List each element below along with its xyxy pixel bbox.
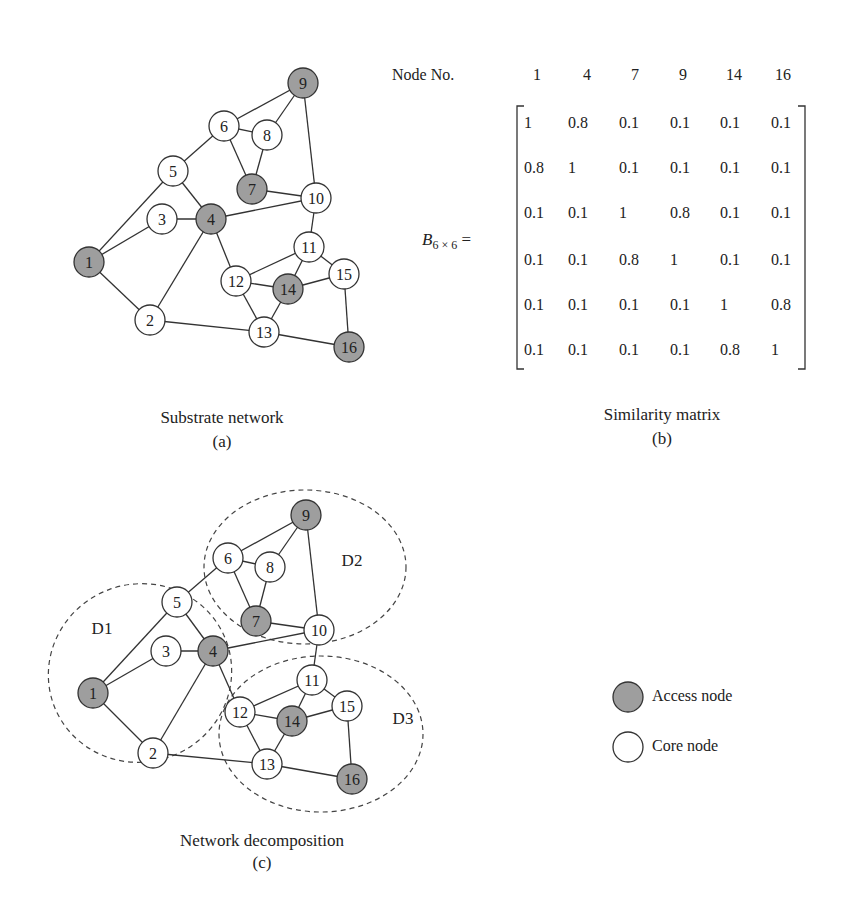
- node-label: 7: [248, 181, 256, 198]
- equals-sign: =: [461, 230, 471, 249]
- edge-9-10: [303, 83, 316, 198]
- node-label: 13: [256, 324, 272, 341]
- matrix-cell: 0.8: [670, 204, 690, 222]
- matrix-cell: 0.1: [568, 204, 588, 222]
- node-10: 10: [304, 615, 334, 645]
- column-header-node-16: 16: [775, 66, 791, 84]
- node-4: 4: [198, 636, 228, 666]
- node-14: 14: [277, 706, 307, 736]
- matrix-cell: 0.1: [619, 296, 639, 314]
- matrix-cell: 0.1: [670, 341, 690, 359]
- matrix-cell: 0.8: [771, 296, 791, 314]
- legend-core-icon: [613, 732, 643, 762]
- node-label: 13: [259, 756, 275, 773]
- matrix-cell: 0.1: [771, 251, 791, 269]
- node-11: 11: [294, 232, 324, 262]
- domain-d1-label: D1: [92, 619, 113, 638]
- caption-similarity-matrix: Similarity matrix: [604, 405, 721, 425]
- legend-access-icon: [613, 682, 643, 712]
- matrix-cell: 0.1: [619, 114, 639, 132]
- caption-network-decomposition: Network decomposition: [180, 831, 344, 851]
- domain-d3-label: D3: [393, 709, 414, 728]
- node-label: 15: [339, 698, 355, 715]
- edge-4-10: [213, 630, 319, 651]
- node-9: 9: [291, 500, 321, 530]
- matrix-bracket-left: [517, 106, 524, 369]
- node-1: 1: [74, 247, 104, 277]
- column-header-node-9: 9: [679, 66, 687, 84]
- node-12: 12: [225, 697, 255, 727]
- matrix-cell: 0.1: [670, 159, 690, 177]
- matrix-cell: 0.1: [771, 114, 791, 132]
- legend-access-label: Access node: [652, 687, 732, 705]
- node-8: 8: [255, 552, 285, 582]
- matrix-cell: 0.1: [720, 159, 740, 177]
- matrix-cell: 1: [670, 251, 678, 269]
- node-label: 9: [299, 75, 307, 92]
- node-label: 1: [89, 685, 97, 702]
- column-header-node-4: 4: [583, 66, 591, 84]
- node-label: 8: [263, 127, 271, 144]
- matrix-name: B6 × 6 =: [422, 230, 471, 253]
- matrix-cell: 0.8: [568, 114, 588, 132]
- matrix-cell: 0.1: [568, 296, 588, 314]
- network-decomposition-graph: 12345678910111213141516: [78, 500, 367, 794]
- node-label: 1: [85, 254, 93, 271]
- node-2: 2: [135, 305, 165, 335]
- node-label: 7: [252, 613, 260, 630]
- node-label: 14: [284, 713, 300, 730]
- node-label: 6: [220, 118, 228, 135]
- node-no-label: Node No.: [392, 66, 454, 84]
- node-14: 14: [273, 274, 303, 304]
- node-label: 15: [336, 266, 352, 283]
- domain-d2-label: D2: [342, 551, 363, 570]
- node-7: 7: [241, 606, 271, 636]
- matrix-subscript: 6 × 6: [432, 238, 457, 252]
- edge-2-13: [150, 320, 264, 332]
- node-5: 5: [158, 156, 188, 186]
- node-13: 13: [252, 749, 282, 779]
- node-label: 3: [162, 643, 170, 660]
- node-label: 2: [146, 312, 154, 329]
- node-7: 7: [237, 174, 267, 204]
- node-label: 9: [302, 507, 310, 524]
- node-label: 4: [207, 211, 215, 228]
- node-label: 5: [169, 163, 177, 180]
- node-label: 14: [280, 281, 296, 298]
- node-label: 11: [301, 239, 316, 256]
- column-header-node-1: 1: [533, 66, 541, 84]
- node-15: 15: [332, 691, 362, 721]
- matrix-cell: 0.1: [720, 251, 740, 269]
- node-label: 16: [341, 339, 357, 356]
- matrix-cell: 0.1: [568, 251, 588, 269]
- matrix-cell: 0.1: [670, 296, 690, 314]
- edge-9-10: [306, 515, 319, 630]
- edge-4-10: [211, 198, 316, 219]
- matrix-cell: 1: [524, 114, 532, 132]
- matrix-cell: 0.1: [524, 204, 544, 222]
- matrix-cell: 0.1: [524, 296, 544, 314]
- column-header-node-14: 14: [726, 66, 742, 84]
- matrix-cell: 0.1: [771, 159, 791, 177]
- node-4: 4: [196, 204, 226, 234]
- node-label: 5: [173, 594, 181, 611]
- node-11: 11: [297, 665, 327, 695]
- edge-2-13: [153, 753, 267, 764]
- matrix-cell: 1: [720, 296, 728, 314]
- matrix-cell: 0.1: [720, 114, 740, 132]
- node-16: 16: [337, 764, 367, 794]
- node-label: 12: [232, 704, 248, 721]
- matrix-cell: 0.1: [619, 159, 639, 177]
- matrix-cell: 0.1: [524, 341, 544, 359]
- node-2: 2: [138, 738, 168, 768]
- matrix-cell: 0.1: [720, 204, 740, 222]
- node-3: 3: [147, 204, 177, 234]
- node-3: 3: [151, 636, 181, 666]
- matrix-cell: 0.1: [568, 341, 588, 359]
- matrix-cell: 0.1: [670, 114, 690, 132]
- node-label: 3: [158, 211, 166, 228]
- matrix-cell: 1: [771, 341, 779, 359]
- node-6: 6: [213, 543, 243, 573]
- node-label: 10: [311, 622, 327, 639]
- matrix-cell: 1: [619, 204, 627, 222]
